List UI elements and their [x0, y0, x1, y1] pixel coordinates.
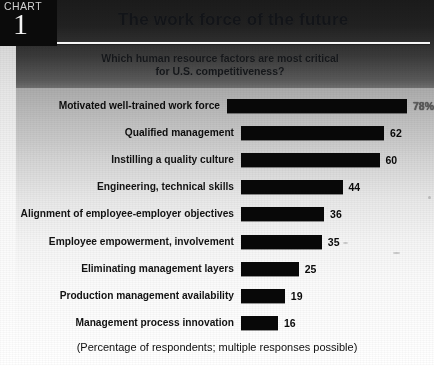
bar-track: 62 [241, 119, 434, 146]
chart-row: Motivated well-trained work force 78% [16, 92, 434, 119]
bar-value-label: 16 [284, 317, 296, 329]
bar [241, 153, 380, 167]
chart-row: Eliminating management layers 25 [16, 255, 434, 282]
bar-category-label: Alignment of employee-employer objective… [16, 208, 241, 220]
bar-value-label: 60 [386, 154, 398, 166]
bar-category-label: Eliminating management layers [16, 263, 241, 275]
bar-value-label: 78% [413, 100, 434, 112]
page-left-margin [0, 0, 16, 365]
bar-value-label: 25 [305, 263, 317, 275]
chart-footnote: (Percentage of respondents; multiple res… [0, 340, 434, 354]
chart-row: Instilling a quality culture 60 [16, 146, 434, 173]
bar-track: 78% [227, 92, 434, 119]
bar-category-label: Instilling a quality culture [16, 154, 241, 166]
bar-category-label: Qualified management [16, 127, 241, 139]
bar [241, 207, 324, 221]
bar-track: 16 [241, 310, 434, 337]
bar-track: 25 [241, 255, 434, 282]
chart-row: Production management availability 19 [16, 282, 434, 309]
chart-number-badge: CHART 1 [0, 0, 57, 46]
bar-track: 60 [241, 146, 434, 173]
page-title: The work force of the future [118, 10, 418, 30]
bar [241, 126, 384, 140]
bar-category-label: Motivated well-trained work force [16, 100, 227, 112]
bar-category-label: Employee empowerment, involvement [16, 236, 241, 248]
bar [227, 99, 407, 113]
bar-value-label: 62 [390, 127, 402, 139]
bar-category-label: Production management availability [16, 290, 241, 302]
scanned-chart-page: CHART 1 The work force of the future Whi… [0, 0, 434, 365]
bar-category-label: Engineering, technical skills [16, 181, 241, 193]
bar-value-label: 35 [328, 236, 340, 248]
chart-row: Alignment of employee-employer objective… [16, 201, 434, 228]
bar-track: 35 [241, 228, 434, 255]
bar [241, 289, 285, 303]
bar-value-label: 36 [330, 208, 342, 220]
title-rule-divider [57, 42, 430, 44]
chart-subtitle-line-2: for U.S. competitiveness? [60, 65, 380, 78]
bar-track: 19 [241, 282, 434, 309]
bar [241, 316, 278, 330]
bar-value-label: 44 [349, 181, 361, 193]
bar-chart-plot: Motivated well-trained work force 78% Qu… [16, 92, 434, 337]
bar-category-label: Management process innovation [16, 317, 241, 329]
chart-row: Engineering, technical skills 44 [16, 174, 434, 201]
chart-subtitle: Which human resource factors are most cr… [60, 52, 380, 78]
bar-value-label: 19 [291, 290, 303, 302]
bar-track: 44 [241, 174, 434, 201]
bar [241, 235, 322, 249]
chart-row: Management process innovation 16 [16, 310, 434, 337]
chart-subtitle-line-1: Which human resource factors are most cr… [101, 52, 339, 64]
chart-row: Employee empowerment, involvement 35 [16, 228, 434, 255]
chart-number: 1 [13, 8, 28, 40]
bar [241, 180, 343, 194]
bar [241, 262, 299, 276]
bar-track: 36 [241, 201, 434, 228]
chart-row: Qualified management 62 [16, 119, 434, 146]
